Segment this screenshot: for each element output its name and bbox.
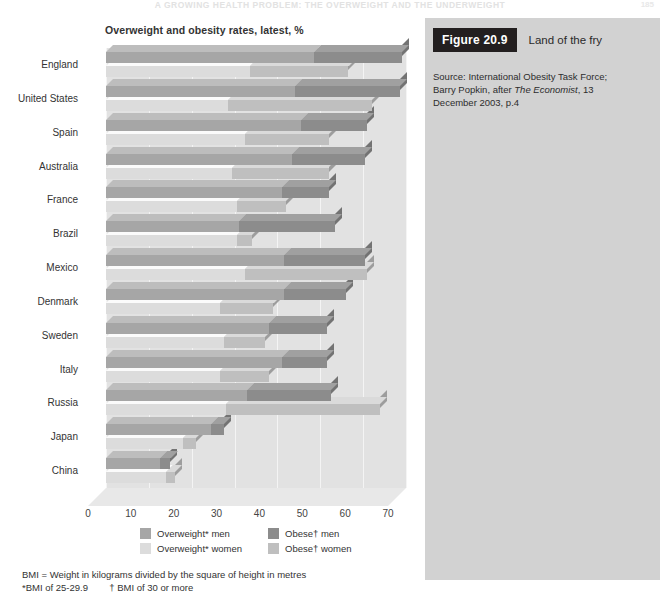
x-tick-label: 60 (340, 508, 351, 519)
bar-segment-top (106, 282, 291, 289)
bar-segment-face (295, 86, 400, 97)
bar-segment-face (183, 438, 196, 449)
bar-women (106, 404, 406, 415)
bar-segment (245, 269, 367, 280)
bar-segment-top (106, 350, 289, 357)
bar-segment (106, 424, 211, 435)
figure-heading: Figure 20.9 Land of the fry (433, 28, 602, 52)
bar-women (106, 201, 406, 212)
legend-label: Overweight* men (157, 528, 230, 539)
bar-women (106, 66, 406, 77)
bar-segment-top (106, 214, 246, 221)
bar-segment (106, 269, 245, 280)
legend-row: Overweight* women Obese† women (140, 541, 400, 556)
bar-men (106, 390, 406, 401)
bar-women (106, 100, 406, 111)
x-tick-label: 0 (85, 508, 91, 519)
bar-segment-face (106, 303, 220, 314)
chart-title: Overweight and obesity rates, latest, % (105, 24, 304, 36)
bar-segment-face (106, 438, 183, 449)
bar-segment-top (106, 147, 299, 154)
bar-men (106, 120, 406, 131)
y-axis-label-england: England (41, 59, 78, 70)
y-axis-label-china: China (52, 465, 78, 476)
bar-segment-top (106, 113, 308, 120)
bar-segment (106, 323, 269, 334)
bar-segment (160, 458, 171, 469)
bar-segment (106, 438, 183, 449)
bar-segment-face (106, 357, 282, 368)
bar-segment-face (106, 134, 245, 145)
chart-footnote: BMI = Weight in kilograms divided by the… (22, 568, 422, 594)
bar-segment-top (106, 45, 321, 52)
footnote-thresholds: *BMI of 25-29.9 † BMI of 30 or more (22, 581, 422, 594)
bar-segment-face (106, 472, 166, 483)
footnote-bmi-definition: BMI = Weight in kilograms divided by the… (22, 568, 422, 581)
y-axis-label-japan: Japan (51, 431, 78, 442)
y-axis-label-brazil: Brazil (53, 228, 78, 239)
bar-segment (239, 221, 335, 232)
bar-segment (314, 52, 402, 63)
bar-segment-face (226, 404, 380, 415)
bar-segment (106, 337, 224, 348)
x-axis-tick-labels: 010203040506070 (88, 508, 418, 522)
bar-segment (295, 86, 400, 97)
x-tick-label: 20 (168, 508, 179, 519)
bar-segment (166, 472, 175, 483)
x-tick-label: 30 (211, 508, 222, 519)
bar-segment-face (314, 52, 402, 63)
footnote-obese-threshold: † BMI of 30 or more (109, 582, 193, 593)
x-tick-label: 70 (382, 508, 393, 519)
bar-segment (106, 168, 232, 179)
figure-source-note: Source: International Obesity Task Force… (433, 70, 648, 109)
bar-men (106, 154, 406, 165)
bar-segment-top (106, 316, 276, 323)
y-axis-label-denmark: Denmark (37, 295, 78, 306)
bar-segment (106, 371, 220, 382)
bar-segment (106, 289, 284, 300)
bar-segment-face (106, 424, 211, 435)
bar-men (106, 458, 406, 469)
bar-segment (106, 120, 301, 131)
y-axis-category-labels: EnglandUnited StatesSpainAustraliaFrance… (0, 48, 84, 508)
bar-segment (284, 255, 365, 266)
bar-segment (106, 390, 247, 401)
bar-segment (282, 357, 327, 368)
y-axis-label-australia: Australia (39, 160, 78, 171)
source-line-2-prefix: Barry Popkin, after (433, 84, 514, 95)
bar-segment-top (106, 383, 254, 390)
bar-segment (282, 187, 329, 198)
legend-swatch-icon (268, 528, 279, 539)
bar-women (106, 337, 406, 348)
y-axis-label-italy: Italy (60, 363, 78, 374)
bar-segment (106, 357, 282, 368)
running-head: A GROWING HEALTH PROBLEM: THE OVERWEIGHT… (0, 0, 660, 13)
bar-segment-face (106, 221, 239, 232)
x-tick-label: 50 (297, 508, 308, 519)
bar-segment-face (106, 154, 292, 165)
bar-segment (106, 255, 284, 266)
bar-segment-face (245, 134, 329, 145)
bar-segment-top (292, 147, 372, 154)
legend-label: Overweight* women (157, 543, 242, 554)
y-axis-label-mexico: Mexico (46, 262, 78, 273)
bar-segment-face (106, 255, 284, 266)
bar-segment (224, 337, 265, 348)
bar-segment (226, 404, 380, 415)
legend-swatch-icon (268, 543, 279, 554)
bar-segment (106, 52, 314, 63)
figure-caption-panel: Figure 20.9 Land of the fry Source: Inte… (425, 18, 660, 580)
bar-segment (220, 303, 274, 314)
bar-men (106, 424, 406, 435)
bar-segment-top (106, 248, 291, 255)
source-line-3: December 2003, p.4 (433, 97, 519, 108)
bar-segment-face (106, 201, 237, 212)
bar-segment-top (301, 113, 374, 120)
bar-segment-face (237, 235, 252, 246)
bar-segment (237, 201, 286, 212)
bar-segment (106, 472, 166, 483)
bar-segment-face (224, 337, 265, 348)
bar-segment-face (245, 269, 367, 280)
legend-item-overweight-women: Overweight* women (140, 543, 268, 554)
source-line-2-suffix: , 13 (578, 84, 594, 95)
